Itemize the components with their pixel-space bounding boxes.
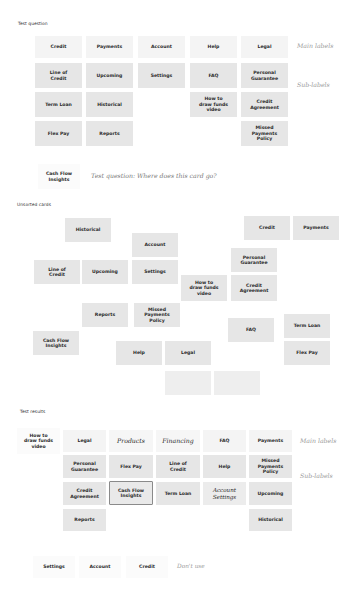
card-how-to-draw-funds-video[interactable]: How to draw funds video xyxy=(190,92,237,117)
unsorted-card-help[interactable]: Help xyxy=(116,341,162,365)
results-card-upcoming[interactable]: Upcoming xyxy=(249,482,292,505)
unsorted-card-line-of-credit[interactable]: Line of Credit xyxy=(34,260,80,284)
card-missed-payments-policy[interactable]: Missed Payments Policy xyxy=(241,121,288,146)
unsorted-card-account[interactable]: Account xyxy=(132,233,178,257)
dont-use-card-credit[interactable]: Credit xyxy=(126,556,168,578)
unsorted-card-personal-guarantee[interactable]: Personal Guarantee xyxy=(231,248,277,272)
unsorted-card-credit[interactable]: Credit xyxy=(244,216,290,240)
unsorted-card-credit-agreement[interactable]: Credit Agreement xyxy=(231,275,277,301)
card-faq[interactable]: FAQ xyxy=(190,63,237,88)
results-main-faq[interactable]: FAQ xyxy=(203,430,246,452)
results-card-credit-agreement[interactable]: Credit Agreement xyxy=(63,482,106,505)
test-results-title: Test results xyxy=(20,409,45,414)
card-reports[interactable]: Reports xyxy=(86,121,133,146)
card-upcoming[interactable]: Upcoming xyxy=(86,63,133,88)
results-card-flex-pay[interactable]: Flex Pay xyxy=(109,455,153,478)
card-main-legal[interactable]: Legal xyxy=(241,36,288,58)
results-card-account-settings[interactable]: Account Settings xyxy=(203,482,246,505)
unsorted-card-reports[interactable]: Reports xyxy=(82,303,128,327)
results-card-personal-guarantee[interactable]: Personal Guarantee xyxy=(63,455,106,478)
card-flex-pay[interactable]: Flex Pay xyxy=(35,121,82,146)
unsorted-card-payments[interactable]: Payments xyxy=(293,216,339,240)
results-main-legal[interactable]: Legal xyxy=(63,430,106,452)
results-sub-labels-note: Sub-labels xyxy=(300,472,333,479)
results-card-help[interactable]: Help xyxy=(203,455,246,478)
results-main-financing[interactable]: Financing xyxy=(156,430,200,452)
card-settings[interactable]: Settings xyxy=(138,63,185,88)
unsorted-card-settings[interactable]: Settings xyxy=(132,260,178,284)
card-main-payments[interactable]: Payments xyxy=(86,36,133,58)
dont-use-card-settings[interactable]: Settings xyxy=(33,556,75,578)
results-card-missed-payments-policy[interactable]: Missed Payments Policy xyxy=(249,455,292,478)
card-main-credit[interactable]: Credit xyxy=(35,36,82,58)
card-historical[interactable]: Historical xyxy=(86,92,133,117)
test-question-title: Test question xyxy=(18,21,48,26)
card-line-of-credit[interactable]: Line of Credit xyxy=(35,63,82,88)
unsorted-card-cash-flow-insights[interactable]: Cash Flow Insights xyxy=(33,331,79,355)
unsorted-card-term-loan[interactable]: Term Loan xyxy=(284,314,330,338)
card-personal-guarantee[interactable]: Personal Guarantee xyxy=(241,63,288,88)
results-card-reports[interactable]: Reports xyxy=(63,509,106,531)
results-main-labels-note: Main labels xyxy=(300,437,336,444)
results-card-how-to-draw-funds-video[interactable]: How to draw funds video xyxy=(17,428,60,454)
empty-card-slot-1 xyxy=(165,371,211,395)
card-cash-flow-insights-question[interactable]: Cash Flow Insights xyxy=(38,164,80,189)
unsorted-card-upcoming[interactable]: Upcoming xyxy=(82,260,128,284)
unsorted-card-legal[interactable]: Legal xyxy=(165,341,211,365)
results-card-term-loan[interactable]: Term Loan xyxy=(156,482,200,505)
test-question-text: Test question: Where does this card go? xyxy=(91,172,217,179)
sub-labels-note: Sub-labels xyxy=(297,81,330,88)
unsorted-card-flex-pay[interactable]: Flex Pay xyxy=(284,341,330,365)
card-main-account[interactable]: Account xyxy=(138,36,185,58)
results-card-line-of-credit[interactable]: Line of Credit xyxy=(156,455,200,478)
unsorted-card-historical[interactable]: Historical xyxy=(65,218,111,242)
dont-use-card-account[interactable]: Account xyxy=(79,556,121,578)
unsorted-cards-title: Unsorted cards xyxy=(17,202,51,207)
results-main-payments[interactable]: Payments xyxy=(249,430,292,452)
results-card-historical[interactable]: Historical xyxy=(249,509,292,531)
dont-use-note: Don't use xyxy=(177,563,205,569)
card-term-loan[interactable]: Term Loan xyxy=(35,92,82,117)
card-main-help[interactable]: Help xyxy=(190,36,237,58)
unsorted-card-how-to-draw-funds-video[interactable]: How to draw funds video xyxy=(181,275,227,301)
empty-card-slot-2 xyxy=(214,371,260,395)
unsorted-card-faq[interactable]: FAQ xyxy=(228,318,274,342)
unsorted-card-missed-payments-policy[interactable]: Missed Payments Policy xyxy=(134,303,180,327)
main-labels-note: Main labels xyxy=(297,42,333,49)
card-credit-agreement[interactable]: Credit Agreement xyxy=(241,92,288,117)
results-main-products[interactable]: Products xyxy=(109,430,153,452)
results-card-cash-flow-insights[interactable]: Cash Flow Insights xyxy=(109,481,153,505)
